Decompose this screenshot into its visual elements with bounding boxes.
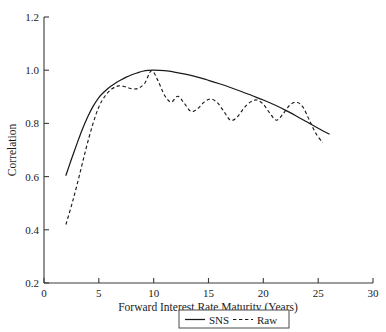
y-axis-ticks: 0.2 0.4 0.6 0.8 1.0 1.2 [25, 11, 49, 289]
legend-label-raw: Raw [257, 314, 277, 326]
correlation-line-chart: 0.2 0.4 0.6 0.8 1.0 1.2 0 5 10 15 20 25 … [0, 0, 386, 332]
y-axis-label: Correlation [6, 124, 18, 177]
series-line-raw [66, 71, 323, 225]
legend-label-sns: SNS [209, 314, 229, 326]
x-tick-label-1: 5 [96, 287, 102, 299]
x-tick-label-3: 15 [203, 287, 215, 299]
y-tick-label-0: 0.2 [25, 277, 39, 289]
x-axis-ticks: 0 5 10 15 20 25 30 [41, 278, 379, 299]
y-tick-label-2: 0.6 [25, 171, 39, 183]
x-tick-label-4: 20 [258, 287, 270, 299]
y-tick-label-3: 0.8 [25, 117, 39, 129]
y-tick-label-5: 1.2 [25, 11, 39, 23]
x-tick-label-2: 10 [148, 287, 160, 299]
chart-legend: SNS Raw [179, 310, 289, 328]
series-line-sns [66, 70, 329, 175]
x-tick-label-5: 25 [313, 287, 325, 299]
x-tick-label-6: 30 [368, 287, 380, 299]
x-tick-label-0: 0 [41, 287, 47, 299]
axes [44, 17, 373, 283]
y-tick-label-4: 1.0 [25, 64, 39, 76]
y-tick-label-1: 0.4 [25, 224, 39, 236]
